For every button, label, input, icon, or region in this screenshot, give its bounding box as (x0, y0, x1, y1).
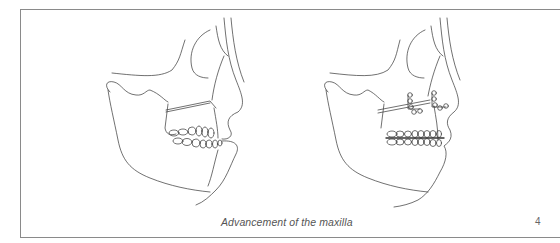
figure-caption: Advancement of the maxilla (221, 216, 353, 228)
postoperative-skull-profile (325, 18, 460, 207)
preoperative-skull-profile (107, 18, 244, 205)
upper-teeth (169, 126, 214, 138)
bone-plate-right (432, 91, 449, 111)
page-number: 4 (535, 216, 541, 227)
lower-teeth (173, 138, 222, 148)
teeth-fixed (386, 131, 444, 147)
bone-plate-left (408, 93, 423, 115)
